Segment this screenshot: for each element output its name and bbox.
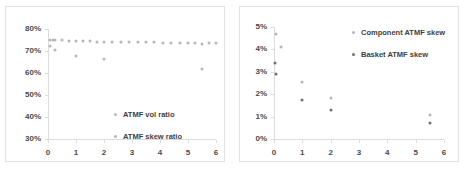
x-axis-tick-label: 0 (272, 149, 276, 157)
data-point (75, 54, 78, 57)
y-axis-tick (45, 117, 48, 118)
data-point (280, 46, 283, 49)
data-point (201, 42, 204, 45)
data-point (428, 113, 431, 116)
data-point (119, 40, 122, 43)
y-axis-tick (271, 49, 274, 50)
y-axis-tick (45, 51, 48, 52)
data-point (111, 40, 114, 43)
figure-container: 30%40%50%60%70%80%0123456ATMF vol ratioA… (0, 0, 464, 171)
chart-panel-left: 30%40%50%60%70%80%0123456ATMF vol ratioA… (5, 6, 225, 162)
x-axis-tick-label: 5 (413, 149, 417, 157)
x-axis-tick (216, 140, 217, 143)
x-axis-tick-label: 3 (357, 149, 361, 157)
data-point (103, 58, 106, 61)
data-point (329, 109, 332, 112)
data-point (301, 98, 304, 101)
data-point (89, 40, 92, 43)
chart-panel-right: 0%1%2%3%4%5%0123456Component ATMF skewBa… (239, 6, 459, 162)
data-point (208, 42, 211, 45)
data-point (329, 97, 332, 100)
data-point (275, 72, 278, 75)
x-axis-tick-label: 1 (74, 149, 78, 157)
y-axis-tick-label: 1% (240, 113, 267, 121)
legend-label: ATMF skew ratio (123, 133, 182, 141)
x-axis-tick-label: 4 (385, 149, 389, 157)
x-axis-tick-label: 3 (130, 149, 134, 157)
scatter-plot-area-right: 0%1%2%3%4%5%0123456Component ATMF skewBa… (240, 7, 458, 161)
y-axis-tick (45, 73, 48, 74)
data-point (136, 41, 139, 44)
x-axis-tick-label: 1 (300, 149, 304, 157)
data-point (75, 39, 78, 42)
x-axis-tick-label: 0 (46, 149, 50, 157)
y-axis-tick-label: 3% (240, 68, 267, 76)
x-axis-tick (416, 140, 417, 143)
y-axis-tick-label: 50% (6, 91, 41, 99)
legend-label: Component ATMF skew (361, 29, 445, 37)
data-point (145, 41, 148, 44)
y-axis-line (274, 27, 275, 139)
x-axis-tick (188, 140, 189, 143)
y-axis-tick-label: 0% (240, 135, 267, 143)
legend-label: ATMF vol ratio (123, 111, 175, 119)
scatter-plot-area-left: 30%40%50%60%70%80%0123456ATMF vol ratioA… (6, 7, 224, 161)
data-point (273, 62, 276, 65)
y-axis-tick (271, 72, 274, 73)
data-point (170, 41, 173, 44)
data-point (54, 38, 57, 41)
y-axis-tick-label: 30% (6, 135, 41, 143)
data-point (61, 39, 64, 42)
y-axis-tick-label: 40% (6, 113, 41, 121)
y-axis-tick-label: 80% (6, 25, 41, 33)
y-axis-tick-label: 5% (240, 23, 267, 31)
x-axis-tick-label: 6 (214, 149, 218, 157)
legend-item: ATMF vol ratio (114, 111, 175, 119)
x-axis-tick (359, 140, 360, 143)
data-point (428, 122, 431, 125)
x-axis-tick-label: 6 (442, 149, 446, 157)
y-axis-tick-label: 2% (240, 90, 267, 98)
data-point (161, 41, 164, 44)
y-axis-tick-label: 70% (6, 47, 41, 55)
y-axis-tick (271, 117, 274, 118)
legend-item: Component ATMF skew (352, 29, 445, 37)
x-axis-tick (302, 140, 303, 143)
x-axis-tick (331, 140, 332, 143)
legend-marker-icon (352, 53, 355, 56)
y-axis-tick (271, 27, 274, 28)
data-point (178, 41, 181, 44)
data-point (54, 48, 57, 51)
x-axis-tick (444, 140, 445, 143)
x-axis-tick (274, 140, 275, 143)
legend-marker-icon (114, 135, 117, 138)
x-axis-tick (76, 140, 77, 143)
legend-marker-icon (114, 113, 117, 116)
data-point (103, 40, 106, 43)
y-axis-tick (45, 29, 48, 30)
legend-item: ATMF skew ratio (114, 133, 182, 141)
x-axis-tick-label: 5 (186, 149, 190, 157)
data-point (153, 41, 156, 44)
data-point (275, 33, 278, 36)
data-point (194, 42, 197, 45)
data-point (96, 40, 99, 43)
y-axis-tick-label: 4% (240, 45, 267, 53)
data-point (82, 40, 85, 43)
x-axis-tick-label: 4 (158, 149, 162, 157)
x-axis-tick (387, 140, 388, 143)
x-axis-tick (48, 140, 49, 143)
y-axis-tick (271, 94, 274, 95)
data-point (128, 41, 131, 44)
data-point (215, 42, 218, 45)
legend-marker-icon (352, 31, 355, 34)
x-axis-tick-label: 2 (102, 149, 106, 157)
x-axis-tick (104, 140, 105, 143)
data-point (187, 41, 190, 44)
x-axis-tick-label: 2 (328, 149, 332, 157)
legend-label: Basket ATMF skew (361, 51, 428, 59)
data-point (49, 45, 52, 48)
data-point (68, 39, 71, 42)
y-axis-tick (45, 95, 48, 96)
legend-item: Basket ATMF skew (352, 51, 428, 59)
